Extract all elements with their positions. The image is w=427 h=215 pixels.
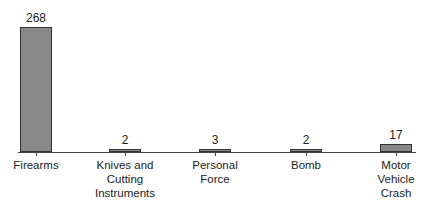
category-label-line: Crash: [351, 186, 427, 200]
x-tick: [36, 152, 37, 156]
x-tick: [396, 152, 397, 156]
category-label-line: Knives and: [80, 158, 170, 172]
category-label: PersonalForce: [170, 158, 260, 186]
x-tick: [306, 152, 307, 156]
category-label-line: Bomb: [261, 158, 351, 172]
x-axis: [18, 152, 416, 153]
category-label-line: Vehicle: [351, 172, 427, 186]
category-label-line: Instruments: [80, 186, 170, 200]
category-label-line: Motor: [351, 158, 427, 172]
category-label: Bomb: [261, 158, 351, 172]
category-label-line: Cutting: [80, 172, 170, 186]
value-label: 268: [11, 11, 61, 25]
category-label: Knives andCuttingInstruments: [80, 158, 170, 200]
category-label-line: Firearms: [0, 158, 81, 172]
value-label: 2: [281, 133, 331, 147]
bar: [380, 144, 412, 152]
value-label: 3: [190, 133, 240, 147]
category-label: Firearms: [0, 158, 81, 172]
category-label-line: Personal: [170, 158, 260, 172]
category-label-line: Force: [170, 172, 260, 186]
bar-chart: 268Firearms2Knives andCuttingInstruments…: [0, 0, 427, 215]
category-label: MotorVehicleCrash: [351, 158, 427, 200]
x-tick: [125, 152, 126, 156]
bar: [20, 27, 52, 152]
value-label: 17: [371, 128, 421, 142]
value-label: 2: [100, 133, 150, 147]
x-tick: [215, 152, 216, 156]
